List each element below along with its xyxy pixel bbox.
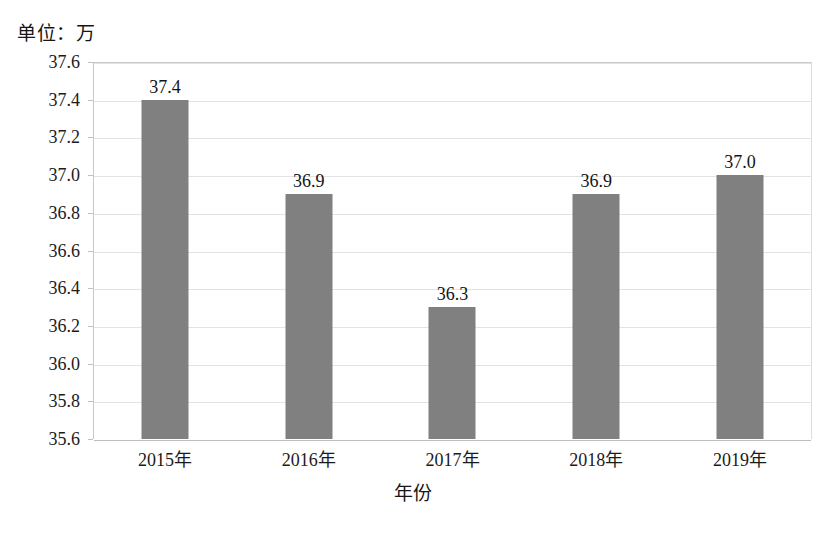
y-axis-tick-mark <box>88 62 93 63</box>
x-axis-tick-label: 2018年 <box>569 447 623 473</box>
y-axis-tick-label: 37.2 <box>49 128 81 146</box>
bars-layer: 37.436.936.336.937.0 <box>93 62 812 439</box>
y-axis-tick-mark <box>88 364 93 365</box>
unit-caption: 单位：万 <box>17 22 95 46</box>
y-axis-tick-mark <box>88 439 93 440</box>
bar-value-label: 36.3 <box>437 284 469 304</box>
y-axis-tick-labels: 37.637.437.237.036.836.636.436.236.035.8… <box>0 62 88 439</box>
y-axis-tick-mark <box>88 401 93 402</box>
y-axis-tick-label: 36.2 <box>49 317 81 335</box>
bar-group[interactable]: 36.9 <box>524 62 668 439</box>
x-axis-tick-label: 2016年 <box>282 447 336 473</box>
bar[interactable] <box>429 307 476 439</box>
bar[interactable] <box>573 194 620 439</box>
x-axis-title: 年份 <box>0 481 840 507</box>
x-axis-tick-label: 2017年 <box>426 447 480 473</box>
gridline <box>94 440 811 441</box>
y-axis-tick-label: 37.0 <box>49 166 81 184</box>
bar[interactable] <box>141 100 188 439</box>
y-axis-tick-mark <box>88 288 93 289</box>
y-axis-tick-label: 36.8 <box>49 204 81 222</box>
y-axis-tick-mark <box>88 251 93 252</box>
bar-value-label: 37.0 <box>724 152 756 172</box>
bar-value-label: 36.9 <box>293 171 325 191</box>
y-axis-tick-label: 37.6 <box>49 53 81 71</box>
bar[interactable] <box>717 175 764 439</box>
bar-group[interactable]: 37.0 <box>668 62 812 439</box>
bar-group[interactable]: 36.3 <box>381 62 525 439</box>
x-axis-tick-labels: 2015年2016年2017年2018年2019年 <box>93 447 812 475</box>
y-axis-tick-mark <box>88 213 93 214</box>
bar-value-label: 37.4 <box>149 77 181 97</box>
bar-group[interactable]: 36.9 <box>237 62 381 439</box>
y-axis-tick-mark <box>88 175 93 176</box>
y-axis-tick-label: 36.0 <box>49 355 81 373</box>
bar-chart-figure: 单位：万 37.637.437.237.036.836.636.436.236.… <box>0 0 840 538</box>
bar[interactable] <box>285 194 332 439</box>
y-axis-tick-mark <box>88 137 93 138</box>
y-axis-tick-label: 36.6 <box>49 242 81 260</box>
y-axis-tick-label: 35.8 <box>49 392 81 410</box>
y-axis-tick-mark <box>88 326 93 327</box>
bar-value-label: 36.9 <box>581 171 613 191</box>
x-axis-tick-label: 2019年 <box>713 447 767 473</box>
y-axis-tick-mark <box>88 100 93 101</box>
y-axis-tick-label: 37.4 <box>49 91 81 109</box>
y-axis-tick-label: 36.4 <box>49 279 81 297</box>
bar-group[interactable]: 37.4 <box>93 62 237 439</box>
x-axis-tick-label: 2015年 <box>138 447 192 473</box>
y-axis-tick-label: 35.6 <box>49 430 81 448</box>
